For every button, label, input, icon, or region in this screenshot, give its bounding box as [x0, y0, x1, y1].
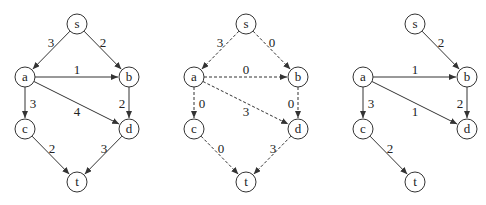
- node-c: c: [184, 119, 204, 139]
- node-d: d: [457, 119, 477, 139]
- edge-label-c-t: 2: [49, 141, 56, 156]
- node-b: b: [288, 67, 308, 87]
- node-label: b: [126, 69, 133, 84]
- graph-residual: 211322sabcdt: [353, 14, 477, 192]
- node-t: t: [236, 172, 256, 192]
- node-label: t: [244, 174, 248, 189]
- node-s: s: [236, 14, 256, 34]
- node-d: d: [288, 119, 308, 139]
- node-s: s: [67, 14, 87, 34]
- graph-flow: 30030003sabcdt: [184, 14, 308, 192]
- edge-label-s-b: 0: [269, 35, 276, 50]
- node-s: s: [405, 14, 425, 34]
- edge-label-a-c: 3: [368, 96, 375, 111]
- node-b: b: [119, 67, 139, 87]
- node-a: a: [353, 67, 373, 87]
- node-label: d: [464, 121, 471, 136]
- edge-label-b-d: 0: [288, 96, 295, 111]
- node-b: b: [457, 67, 477, 87]
- node-label: a: [191, 69, 197, 84]
- node-label: d: [295, 121, 302, 136]
- edge-label-a-d: 3: [243, 104, 250, 119]
- node-label: t: [75, 174, 79, 189]
- node-label: c: [22, 121, 28, 136]
- node-label: s: [243, 16, 248, 31]
- node-label: s: [412, 16, 417, 31]
- edge-label-a-d: 4: [74, 104, 81, 119]
- edge-label-b-d: 2: [119, 96, 126, 111]
- edge-label-c-t: 2: [387, 141, 394, 156]
- node-t: t: [405, 172, 425, 192]
- node-a: a: [15, 67, 35, 87]
- diagram-canvas: 32143223sabcdt30030003sabcdt211322sabcdt: [0, 0, 486, 205]
- edge-label-a-b: 0: [243, 62, 250, 77]
- node-d: d: [119, 119, 139, 139]
- node-c: c: [353, 119, 373, 139]
- graph-network: 32143223sabcdt: [15, 14, 139, 192]
- edge-label-a-d: 1: [412, 104, 419, 119]
- edge-label-s-a: 3: [217, 35, 224, 50]
- node-label: a: [360, 69, 366, 84]
- node-label: d: [126, 121, 133, 136]
- edge-label-s-b: 2: [438, 35, 445, 50]
- node-a: a: [184, 67, 204, 87]
- node-label: c: [360, 121, 366, 136]
- node-t: t: [67, 172, 87, 192]
- edge-label-b-d: 2: [457, 96, 464, 111]
- node-label: b: [464, 69, 471, 84]
- node-label: b: [295, 69, 302, 84]
- node-label: s: [74, 16, 79, 31]
- edge-label-c-t: 0: [218, 141, 225, 156]
- edge-label-d-t: 3: [101, 141, 108, 156]
- edge-label-a-b: 1: [412, 62, 419, 77]
- edge-label-a-b: 1: [74, 62, 81, 77]
- edge-label-a-c: 0: [199, 96, 206, 111]
- node-label: c: [191, 121, 197, 136]
- node-label: a: [22, 69, 28, 84]
- node-c: c: [15, 119, 35, 139]
- node-label: t: [413, 174, 417, 189]
- edge-label-a-c: 3: [30, 96, 37, 111]
- edge-label-d-t: 3: [270, 141, 277, 156]
- edge-label-s-b: 2: [100, 35, 107, 50]
- flow-network-diagrams: 32143223sabcdt30030003sabcdt211322sabcdt: [0, 0, 486, 205]
- edge-label-s-a: 3: [48, 35, 55, 50]
